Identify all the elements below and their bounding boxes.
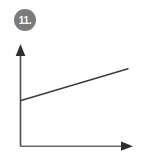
data-series-line	[21, 69, 128, 101]
y-axis-arrow-icon	[16, 44, 26, 56]
figure-container: 11.	[0, 0, 145, 155]
chart-canvas	[0, 0, 145, 155]
line-chart	[0, 0, 145, 155]
x-axis-arrow-icon	[121, 142, 133, 151]
